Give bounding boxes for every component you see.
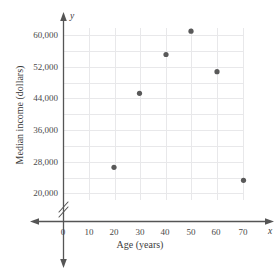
scatter-plot-figure: 60,000 52,000 44,000 36,000 28,000 20,00… [0, 0, 280, 275]
x-tick-label-50: 50 [187, 228, 196, 237]
y-tick-label-44000: 44,000 [4, 94, 58, 103]
y-tick-label-28000: 28,000 [4, 158, 58, 167]
x-tick-label-10: 10 [85, 228, 94, 237]
data-point [188, 29, 193, 34]
x-tick-label-40: 40 [161, 228, 170, 237]
x-axis-line [30, 218, 274, 225]
y-tick-label-60000: 60,000 [4, 31, 58, 40]
x-tick-label-30: 30 [136, 228, 145, 237]
data-point [214, 69, 219, 74]
x-tick-label-0: 0 [61, 228, 66, 237]
data-point [137, 91, 142, 96]
x-tick-label-60: 60 [212, 228, 221, 237]
y-axis-symbol: y [70, 12, 74, 22]
y-tick-label-52000: 52,000 [4, 63, 58, 72]
y-tick-label-36000: 36,000 [4, 126, 58, 135]
horizontal-gridlines [63, 36, 244, 194]
y-axis-title: Median income (dollars) [15, 40, 25, 190]
data-point [163, 52, 168, 57]
x-tick-label-70: 70 [239, 228, 248, 237]
data-point [241, 178, 246, 183]
x-axis-title: Age (years) [0, 240, 280, 250]
x-tick-label-20: 20 [110, 228, 119, 237]
y-tick-label-20000: 20,000 [4, 189, 58, 198]
data-point [111, 165, 116, 170]
x-axis-symbol: x [268, 227, 272, 237]
